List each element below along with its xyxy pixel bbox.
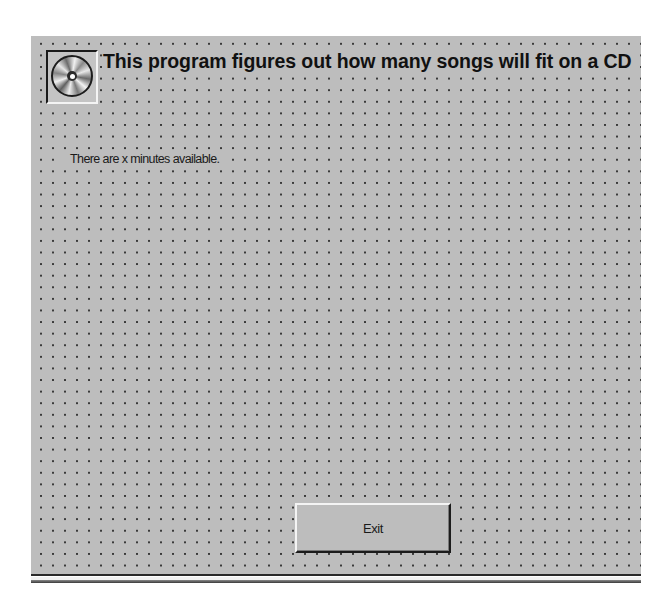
cd-image-box: [46, 50, 98, 104]
cd-disc-icon: [51, 55, 93, 97]
minutes-available-label: There are x minutes available.: [61, 150, 225, 168]
form-bottom-shadow: [31, 580, 641, 583]
exit-button[interactable]: Exit: [295, 503, 451, 553]
cd-center-hole: [70, 74, 75, 79]
form-bottom-border: [31, 574, 641, 576]
cd-hub: [67, 71, 77, 81]
form-design-surface: This program figures out how many songs …: [31, 36, 641, 574]
program-title-label: This program figures out how many songs …: [103, 49, 634, 73]
